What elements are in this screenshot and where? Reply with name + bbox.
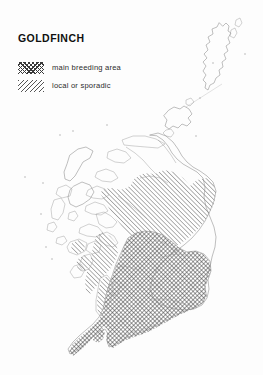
coast-shetland [203, 23, 231, 90]
islet-dot [72, 130, 74, 132]
coast-gairloch [95, 169, 118, 182]
islet-dot [195, 135, 197, 137]
islet-dot [24, 176, 26, 178]
shaded-areas [69, 170, 216, 356]
coast-shetland-unst [235, 18, 242, 27]
coast-coll-tiree [56, 236, 67, 245]
coast-north-coast [122, 136, 165, 148]
coast-lewis-harris [64, 147, 93, 181]
islet-dot [212, 62, 214, 64]
islet-dot [40, 213, 42, 215]
islet-dot [42, 182, 44, 184]
map-page: GOLDFINCH main breeding area local or sp… [0, 0, 263, 375]
islet-dot [106, 124, 108, 126]
coast-assynt [107, 149, 131, 163]
islet-dot [59, 134, 61, 136]
coast-inland-sutherland-boundary [126, 147, 157, 175]
coast-knoydart [85, 202, 108, 215]
islet-dot [45, 246, 47, 248]
coast-orkney-mainland [164, 106, 192, 129]
coast-skye [68, 182, 94, 207]
shetland-inset-divider [186, 84, 222, 107]
islet-dot [51, 258, 53, 260]
coast-ardnamurchan [79, 224, 103, 237]
coast-orkney-north-isles [186, 98, 194, 106]
islet-dot [244, 53, 246, 55]
map-svg [0, 0, 263, 375]
coast-inland-caithness-boundary [158, 140, 176, 163]
coast-barra [47, 222, 57, 232]
coast-south-uist [51, 198, 65, 220]
islet-dot [199, 97, 201, 99]
coast-orkney-hoy [163, 129, 174, 137]
coast-rum-eigg [68, 211, 78, 221]
distribution-map [0, 0, 263, 375]
